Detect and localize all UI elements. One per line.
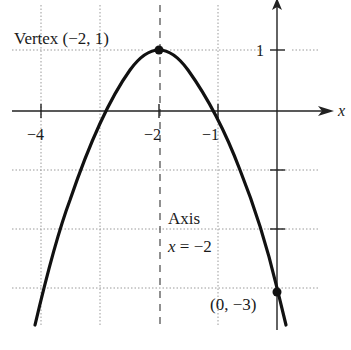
y-intercept-point	[273, 288, 282, 297]
x-axis	[12, 104, 328, 118]
y-intercept-label: (0, −3)	[210, 295, 256, 314]
vertex-label: Vertex (−2, 1)	[14, 29, 109, 48]
x-tick-label-neg2: −2	[144, 126, 161, 143]
axis-eq-rest: = −2	[176, 237, 212, 256]
y-tick-label-1: 1	[256, 42, 264, 59]
vertex-point	[155, 46, 164, 55]
parabola-figure: Vertex (−2, 1) (0, −3) Axis x = −2 x −4 …	[0, 0, 351, 350]
x-axis-label: x	[337, 102, 345, 119]
x-tick-label-neg1: −1	[202, 126, 219, 143]
x-tick-label-neg4: −4	[27, 126, 44, 143]
chart-canvas: Vertex (−2, 1) (0, −3) Axis x = −2 x −4 …	[0, 0, 351, 350]
axis-label-word: Axis	[168, 209, 200, 228]
y-axis	[270, 3, 285, 330]
axis-label-equation: x = −2	[167, 237, 212, 256]
